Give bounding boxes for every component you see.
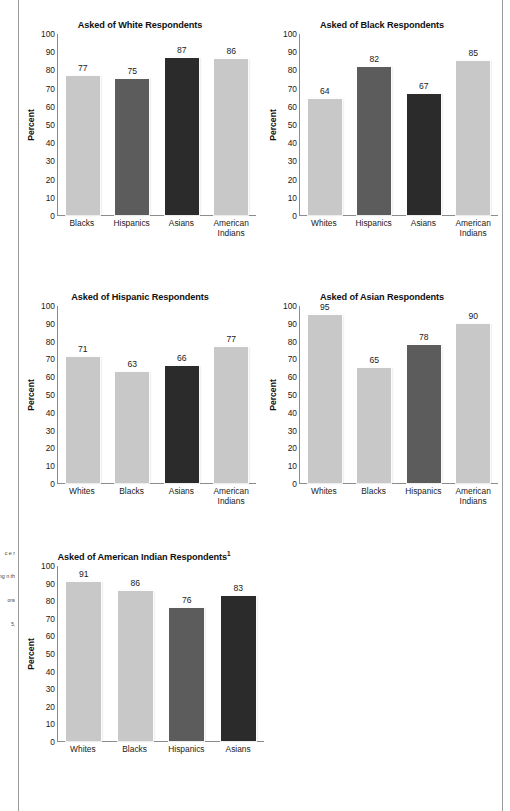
x-axis-spacer [24,486,37,506]
plot-row: Percent010203040506070809010071636677 [24,306,256,484]
bar[interactable]: 77 [66,76,100,215]
bar[interactable]: 75 [115,79,149,215]
y-tick-label: 40 [46,667,55,677]
bar[interactable]: 66 [165,366,199,483]
bar[interactable]: 78 [407,345,441,483]
y-tick-label: 0 [292,479,297,489]
bar[interactable]: 86 [118,591,153,742]
x-axis-categories: BlacksHispanicsAsiansAmerican Indians [57,218,256,238]
y-tick-label: 0 [50,211,55,221]
y-axis-ticks: 0102030405060708090100 [279,306,299,484]
bar[interactable]: 91 [66,582,101,741]
bar-slot: 85 [449,34,499,215]
bar[interactable]: 95 [308,315,342,483]
x-tick-label: Hispanics [161,744,213,754]
bar[interactable]: 82 [357,67,391,215]
bar[interactable]: 87 [165,58,199,215]
bar[interactable]: 63 [115,372,149,484]
y-tick-label: 20 [46,702,55,712]
y-tick-label: 90 [46,579,55,589]
bar[interactable]: 76 [169,608,204,741]
y-tick-label: 0 [50,479,55,489]
x-tick-label: Whites [299,218,349,238]
bar[interactable]: 64 [308,99,342,215]
bar[interactable]: 85 [456,61,490,215]
x-tick-label: Asians [399,218,449,238]
bar-value-label: 77 [226,334,236,344]
y-axis-label-text: Percent [26,379,36,411]
bar[interactable]: 90 [456,324,490,483]
bar-value-label: 77 [78,63,88,73]
bar-slot: 77 [58,34,108,215]
y-axis-label: Percent [24,34,37,216]
x-tick-label: Asians [212,744,264,754]
x-axis-spacer [266,218,279,238]
bar-slot: 71 [58,306,108,483]
bar-slot: 83 [213,566,265,741]
bar-value-label: 63 [127,359,137,369]
bar-value-label: 71 [78,344,88,354]
y-tick-label: 40 [288,408,297,418]
y-tick-label: 90 [288,319,297,329]
plot-row: Percent010203040506070809010095657890 [266,306,498,484]
x-tick-label: Asians [157,218,207,238]
bar-slot: 82 [350,34,400,215]
bar-value-label: 90 [468,311,478,321]
x-axis: WhitesBlacksHispanicsAsians [24,744,264,754]
bar-slot: 64 [300,34,350,215]
y-tick-label: 10 [288,461,297,471]
x-tick-label: American Indians [448,486,498,506]
plot-area: 64826785 [299,34,498,216]
plot-area: 91867683 [57,566,264,742]
x-tick-label: American Indians [206,486,256,506]
y-tick-label: 50 [288,120,297,130]
y-tick-label: 100 [41,29,55,39]
bar[interactable]: 71 [66,357,100,483]
bar[interactable]: 77 [214,347,248,483]
bar-slot: 77 [207,306,257,483]
x-axis: BlacksHispanicsAsiansAmerican Indians [24,218,256,238]
y-tick-label: 80 [288,337,297,347]
x-axis-categories: WhitesBlacksHispanicsAmerican Indians [299,486,498,506]
bar[interactable]: 67 [407,94,441,215]
y-tick-label: 50 [46,390,55,400]
bar-value-label: 85 [468,48,478,58]
chart-title: Asked of American Indian Respondents1 [24,552,264,562]
y-axis-ticks: 0102030405060708090100 [37,34,57,216]
y-axis-label-text: Percent [268,109,278,141]
y-tick-label: 40 [46,138,55,148]
bar-group: 71636677 [58,306,256,483]
y-tick-label: 80 [288,65,297,75]
y-tick-label: 90 [46,47,55,57]
y-axis-ticks: 0102030405060708090100 [279,34,299,216]
bar-group: 64826785 [300,34,498,215]
y-tick-label: 20 [46,175,55,185]
x-tick-label: Hispanics [107,218,157,238]
bar-value-label: 76 [182,595,192,605]
y-tick-label: 0 [292,211,297,221]
y-tick-label: 20 [288,443,297,453]
y-tick-label: 40 [46,408,55,418]
x-axis-spacer [37,218,57,238]
y-tick-label: 60 [46,102,55,112]
bar-value-label: 91 [79,569,89,579]
x-axis: WhitesBlacksHispanicsAmerican Indians [266,486,498,506]
y-tick-label: 50 [46,120,55,130]
x-tick-label: Hispanics [399,486,449,506]
bar-chart-black-respondents: Asked of Black RespondentsPercent0102030… [266,20,498,238]
y-tick-label: 20 [46,443,55,453]
bar-slot: 66 [157,306,207,483]
bar[interactable]: 83 [221,596,256,741]
bar-group: 91867683 [58,566,264,741]
y-tick-label: 70 [288,84,297,94]
bar[interactable]: 65 [357,368,391,483]
bar-slot: 63 [108,306,158,483]
bar-slot: 75 [108,34,158,215]
bar-slot: 87 [157,34,207,215]
x-tick-label: Whites [57,486,107,506]
x-axis-spacer [24,218,37,238]
bar-value-label: 65 [369,355,379,365]
y-axis-label: Percent [266,34,279,216]
bar[interactable]: 86 [214,59,248,215]
y-tick-label: 70 [46,84,55,94]
